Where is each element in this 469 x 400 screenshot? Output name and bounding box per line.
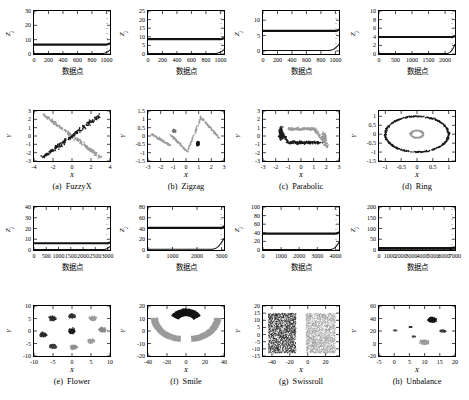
fuzzyx-scatter-ytick-label: 3 — [5, 108, 31, 114]
unbalance-scatter-axes — [378, 305, 456, 357]
panel-caption-ring: (d) Ring — [362, 182, 469, 191]
flower-scatter-xtick-label: 10 — [95, 359, 125, 365]
ring-zj-xtick-label: 2000 — [430, 57, 460, 63]
caption-letter: (f) — [170, 377, 178, 386]
smile-scatter-ytick-label: 20 — [119, 303, 145, 309]
ring-zj-x-axis-label: 数据点 — [387, 65, 447, 76]
caption-letter: (d) — [402, 182, 412, 191]
swissroll-zj-y-axis-label: Zj — [233, 209, 242, 249]
unbalance-zj-xtick-label: 7000 — [440, 253, 469, 259]
smile-scatter-y-axis-label: Y — [119, 311, 127, 351]
caption-letter: (a) — [52, 182, 61, 191]
parabolic-zj-y-axis-label: Zj — [233, 13, 242, 53]
fuzzyx-zj-xtick-label: 1000 — [91, 57, 121, 63]
panel-caption-flower: (e) Flower — [17, 377, 127, 386]
parabolic-scatter-y-axis-label: Y — [234, 116, 242, 156]
smile-zj-y-axis-label: Zj — [118, 209, 127, 249]
smile-zj-xtick-label: 3000 — [207, 253, 237, 259]
caption-letter: (h) — [393, 377, 403, 386]
flower-scatter-ytick-label: 10 — [5, 303, 31, 309]
swissroll-scatter-y-axis-label: Y — [234, 311, 242, 351]
parabolic-scatter-x-axis-label: X — [271, 171, 331, 179]
zigzag-scatter-y-axis-label: Y — [119, 116, 127, 156]
panel-caption-fuzzyx: (a) FuzzyX — [17, 182, 127, 191]
parabolic-scatter-axes — [262, 110, 340, 162]
zigzag-zj-xtick-label: 1000 — [205, 57, 235, 63]
smile-zj-axes — [147, 206, 225, 251]
smile-scatter-xtick-label: 40 — [209, 359, 239, 365]
swissroll-zj-xtick-label: 4000 — [320, 253, 350, 259]
zigzag-scatter-x-axis-label: X — [156, 171, 216, 179]
parabolic-zj-xtick-label: 1000 — [320, 57, 350, 63]
smile-zj-x-axis-label: 数据点 — [156, 261, 216, 272]
fuzzyx-scatter-xtick-label: 4 — [95, 164, 125, 170]
panel-caption-unbalance: (h) Unbalance — [362, 377, 469, 386]
parabolic-scatter-ytick-label: 3 — [234, 108, 260, 114]
swissroll-scatter-axes — [262, 305, 340, 357]
swissroll-scatter-xtick-label: 20 — [311, 359, 341, 365]
parabolic-zj-axes — [262, 10, 340, 55]
caption-letter: (c) — [279, 182, 288, 191]
ring-scatter-xtick-label: 1 — [434, 164, 464, 170]
fuzzyx-scatter-x-axis-label: X — [42, 171, 102, 179]
caption-letter: (e) — [54, 377, 63, 386]
fuzzyx-zj-x-axis-label: 数据点 — [42, 65, 102, 76]
flower-zj-y-axis-label: Zj — [4, 209, 13, 249]
smile-scatter-axes — [147, 305, 225, 357]
ring-scatter-y-axis-label: Y — [350, 116, 358, 156]
unbalance-scatter-y-axis-label: Y — [350, 311, 358, 351]
parabolic-zj-x-axis-label: 数据点 — [271, 65, 331, 76]
flower-zj-xtick-label: 3000 — [93, 253, 123, 259]
ring-scatter-x-axis-label: X — [387, 171, 447, 179]
caption-name: Zigzag — [181, 182, 204, 191]
swissroll-scatter-x-axis-label: X — [271, 366, 331, 374]
unbalance-scatter-ytick-label: 60 — [350, 303, 376, 309]
ring-zj-axes — [378, 10, 456, 55]
smile-scatter-x-axis-label: X — [156, 366, 216, 374]
ring-scatter-axes — [378, 110, 456, 162]
caption-name: Flower — [67, 377, 90, 386]
ring-zj-y-axis-label: Zj — [349, 13, 358, 53]
caption-name: Parabolic — [292, 182, 323, 191]
zigzag-zj-y-axis-label: Zj — [118, 13, 127, 53]
flower-zj-x-axis-label: 数据点 — [42, 261, 102, 272]
swissroll-zj-x-axis-label: 数据点 — [271, 261, 331, 272]
swissroll-scatter-ytick-label: 20 — [234, 303, 260, 309]
caption-name: Ring — [416, 182, 432, 191]
panel-caption-zigzag: (b) Zigzag — [131, 182, 241, 191]
fuzzyx-zj-axes — [33, 10, 111, 55]
panel-caption-smile: (f) Smile — [131, 377, 241, 386]
unbalance-zj-y-axis-label: Zj — [349, 209, 358, 249]
unbalance-zj-x-axis-label: 数据点 — [387, 261, 447, 272]
caption-name: Smile — [183, 377, 202, 386]
parabolic-scatter-xtick-label: 3 — [324, 164, 354, 170]
panel-caption-swissroll: (g) Swissroll — [246, 377, 356, 386]
swissroll-zj-axes — [262, 206, 340, 251]
caption-letter: (g) — [279, 377, 289, 386]
caption-name: Swissroll — [293, 377, 323, 386]
fuzzyx-scatter-axes — [33, 110, 111, 162]
caption-name: Unbalance — [406, 377, 441, 386]
fuzzyx-scatter-y-axis-label: Y — [5, 116, 13, 156]
caption-name: FuzzyX — [66, 182, 92, 191]
zigzag-scatter-ytick-label: 1.5 — [119, 108, 145, 114]
figure-sheet: 010203002004006008001000Zj数据点05101520250… — [0, 0, 469, 400]
unbalance-scatter-x-axis-label: X — [387, 366, 447, 374]
unbalance-scatter-xtick-label: 20 — [440, 359, 469, 365]
zigzag-zj-axes — [147, 10, 225, 55]
flower-zj-axes — [33, 206, 111, 251]
flower-scatter-x-axis-label: X — [42, 366, 102, 374]
panel-caption-parabolic: (c) Parabolic — [246, 182, 356, 191]
fuzzyx-zj-y-axis-label: Zj — [4, 13, 13, 53]
zigzag-zj-x-axis-label: 数据点 — [156, 65, 216, 76]
flower-scatter-y-axis-label: Y — [5, 311, 13, 351]
flower-scatter-axes — [33, 305, 111, 357]
unbalance-zj-axes — [378, 206, 456, 251]
zigzag-scatter-xtick-label: 3 — [209, 164, 239, 170]
zigzag-scatter-axes — [147, 110, 225, 162]
caption-letter: (b) — [168, 182, 178, 191]
